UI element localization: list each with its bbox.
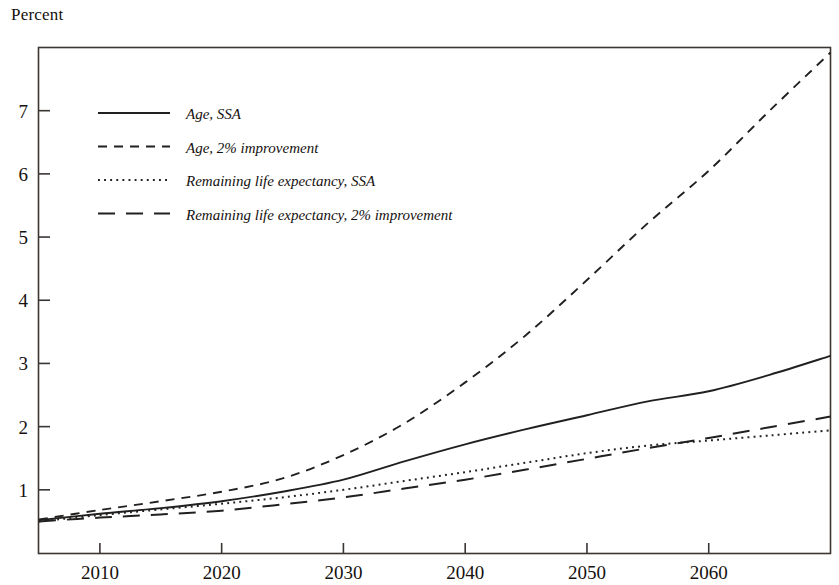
legend-item-label: Remaining life expectancy, 2% improvemen…: [185, 207, 453, 223]
x-tick-label: 2030: [324, 562, 362, 583]
y-tick-label: 4: [19, 290, 29, 311]
y-tick-label: 2: [19, 417, 29, 438]
x-tick-label: 2040: [446, 562, 484, 583]
legend-item-label: Age, SSA: [185, 106, 242, 122]
chart-legend: Age, SSAAge, 2% improvementRemaining lif…: [98, 106, 453, 223]
y-tick-label: 7: [19, 101, 29, 122]
line-chart-plot: 1234567 201020202030204020502060 Age, SS…: [0, 0, 839, 585]
y-tick-label: 1: [19, 480, 29, 501]
x-tick-label: 2050: [568, 562, 606, 583]
x-tick-label: 2010: [81, 562, 119, 583]
legend-item-label: Age, 2% improvement: [185, 140, 319, 156]
y-tick-label: 6: [19, 164, 29, 185]
chart-figure: Percent 1234567 201020202030204020502060…: [0, 0, 839, 585]
y-tick-label: 3: [19, 353, 29, 374]
x-tick-label: 2020: [203, 562, 241, 583]
y-axis-ticks: 1234567: [19, 101, 51, 501]
x-tick-label: 2060: [690, 562, 728, 583]
legend-item-label: Remaining life expectancy, SSA: [185, 173, 376, 189]
x-axis-ticks: 201020202030204020502060: [81, 543, 728, 583]
y-tick-label: 5: [19, 227, 29, 248]
data-series-group: [39, 53, 831, 522]
series-line-dashed: [39, 53, 831, 520]
series-line-longdash: [39, 417, 831, 522]
